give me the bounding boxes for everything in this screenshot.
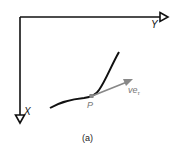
velocity-label-subscript: τ (138, 90, 141, 96)
velocity-vector-label: veτ (128, 85, 141, 96)
point-p-marker (90, 94, 94, 98)
y-axis-label: Y (151, 19, 159, 30)
velocity-label-main: ve (128, 85, 138, 95)
velocity-vector (92, 79, 133, 96)
kinematics-diagram: Y X P veτ (a) (0, 0, 177, 154)
trajectory-curve (50, 52, 119, 108)
point-p-label: P (87, 100, 93, 110)
y-axis (20, 13, 168, 22)
y-axis-arrowhead-icon (160, 13, 168, 22)
x-axis-label: X (23, 106, 31, 117)
figure-caption: (a) (82, 133, 93, 143)
